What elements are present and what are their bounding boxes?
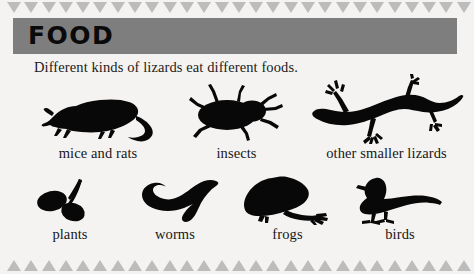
triangle-marker [163,260,177,271]
triangle-marker [336,260,350,271]
food-item-label: plants [52,226,87,243]
lizard-gecko-silhouette-icon [309,82,464,144]
triangle-marker [266,260,280,271]
triangle-marker [439,260,453,271]
triangle-marker [145,260,159,271]
triangle-marker [59,2,73,13]
triangle-marker [7,2,21,13]
beetle-insect-silhouette-icon [189,82,284,144]
triangle-marker [457,260,471,271]
triangle-marker [215,260,229,271]
triangle-marker [301,260,315,271]
food-item-label: worms [155,226,195,243]
triangle-border-bottom [0,255,474,271]
triangle-marker [284,2,298,13]
triangle-marker [388,2,402,13]
triangle-marker [163,2,177,13]
triangle-marker [249,260,263,271]
page-title: FOOD [28,23,114,48]
triangle-marker [93,2,107,13]
plant-leaves-silhouette-icon [35,175,105,225]
triangle-marker [232,260,246,271]
triangle-marker [370,2,384,13]
section-banner: FOOD [13,18,457,54]
triangle-marker [197,2,211,13]
triangle-marker [215,2,229,13]
triangle-marker [59,260,73,271]
food-item-label: other smaller lizards [326,145,446,162]
triangle-marker [128,2,142,13]
triangle-marker [24,260,38,271]
triangle-marker [353,260,367,271]
triangle-marker [318,2,332,13]
food-item-label: insects [216,145,256,162]
triangle-marker [42,260,56,271]
triangle-marker [249,2,263,13]
food-item-mice-and-rats: mice and rats [22,82,174,162]
triangle-marker [180,260,194,271]
triangle-marker [301,2,315,13]
triangle-marker [111,260,125,271]
triangle-marker [336,2,350,13]
food-row-bottom: plants worms [0,175,474,243]
food-item-label: mice and rats [59,145,138,162]
food-item-label: frogs [272,226,302,243]
food-item-plants: plants [20,175,120,243]
triangle-marker [93,260,107,271]
food-row-top: mice and rats [0,82,474,162]
food-infographic-page: FOOD Different kinds of lizards eat diff… [0,0,474,274]
triangle-marker [405,260,419,271]
food-item-label: birds [385,226,415,243]
triangle-marker [388,260,402,271]
triangle-marker [405,2,419,13]
triangle-marker [318,260,332,271]
triangle-marker [24,2,38,13]
food-item-frogs: frogs [230,175,345,243]
triangle-marker [76,2,90,13]
triangle-marker [42,2,56,13]
triangle-marker [422,2,436,13]
triangle-marker [76,260,90,271]
triangle-marker [422,260,436,271]
frog-silhouette-icon [242,175,334,225]
triangle-marker [284,260,298,271]
food-item-insects: insects [174,82,299,162]
triangle-marker [128,260,142,271]
triangle-border-top [0,2,474,18]
triangle-marker [7,260,21,271]
bird-silhouette-icon [356,175,444,225]
triangle-marker [197,260,211,271]
food-item-birds: birds [345,175,455,243]
intro-text: Different kinds of lizards eat different… [34,59,298,76]
triangle-marker [145,2,159,13]
mouse-rat-silhouette-icon [38,82,158,144]
food-item-worms: worms [120,175,230,243]
food-item-other-smaller-lizards: other smaller lizards [299,82,474,162]
triangle-marker [180,2,194,13]
triangle-marker [457,2,471,13]
triangle-marker [439,2,453,13]
worm-silhouette-icon [128,175,223,225]
triangle-marker [353,2,367,13]
triangle-marker [266,2,280,13]
triangle-marker [232,2,246,13]
triangle-marker [111,2,125,13]
triangle-marker [370,260,384,271]
